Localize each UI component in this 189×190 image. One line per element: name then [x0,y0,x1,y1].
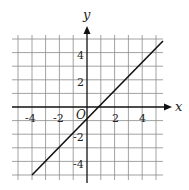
x-axis-arrow-icon [164,104,172,111]
x-tick-label: -2 [53,112,64,125]
x-tick-label: -4 [25,112,36,125]
origin-label: O [76,108,86,122]
y-tick-label: 4 [77,49,84,62]
x-tick-label: 4 [139,112,146,125]
x-tick-label: 2 [112,112,119,125]
y-tick-label: -4 [73,158,84,171]
y-tick-label: -2 [73,131,84,144]
axes [12,32,166,183]
series-line [32,41,163,175]
y-axis-arrow-icon [84,26,91,34]
y-tick-label: 2 [77,76,84,89]
x-axis-label: x [175,99,183,114]
y-axis-label: y [82,7,91,22]
coordinate-plane: x y O -4 -2 2 4 4 2 -2 -4 [0,0,189,190]
